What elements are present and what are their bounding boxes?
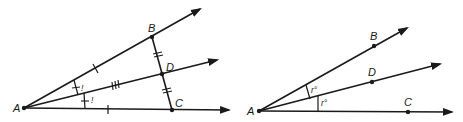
- point-a-right: [257, 109, 261, 113]
- angle-mark-lower-left: !: [91, 95, 94, 105]
- point-b-right: [372, 44, 376, 48]
- label-a-right: A: [246, 105, 254, 117]
- figure-right: r° r° A B D C: [246, 28, 452, 117]
- angle-tick-upper-left: [72, 87, 80, 88]
- figure-left: ! ! A B D C: [12, 9, 229, 114]
- angle-arc-upper-right: [306, 85, 310, 99]
- ray-ad-right: [259, 64, 440, 111]
- label-b-left: B: [148, 22, 155, 34]
- ray-ab-left: [24, 9, 200, 108]
- point-b-left: [150, 35, 154, 39]
- label-c-left: C: [175, 97, 183, 109]
- angle-label-upper-right: r°: [311, 85, 318, 95]
- label-c-right: C: [404, 96, 412, 108]
- label-d-right: D: [368, 66, 376, 78]
- ray-ab-right: [259, 28, 407, 111]
- label-d-left: D: [166, 61, 174, 73]
- point-c-left: [170, 108, 174, 112]
- point-a-left: [22, 106, 26, 110]
- geometry-diagram: ! ! A B D C r° r° A B D C: [0, 0, 463, 122]
- ray-ac-right: [259, 111, 452, 112]
- double-tick-bd: [153, 52, 163, 57]
- label-b-right: B: [370, 30, 377, 42]
- point-d-left: [160, 72, 164, 76]
- point-c-right: [406, 110, 410, 114]
- ray-ac-left: [24, 108, 229, 110]
- ray-ad-left: [24, 60, 217, 108]
- label-a-left: A: [12, 102, 20, 114]
- angle-label-lower-right: r°: [321, 98, 328, 108]
- angle-mark-upper-left: !: [81, 83, 84, 93]
- point-d-right: [370, 80, 374, 84]
